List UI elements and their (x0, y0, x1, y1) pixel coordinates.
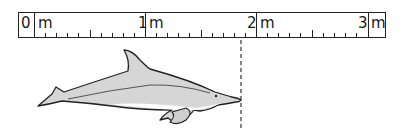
dolphin-eye (215, 95, 217, 97)
dolphin-illustration (0, 0, 403, 135)
